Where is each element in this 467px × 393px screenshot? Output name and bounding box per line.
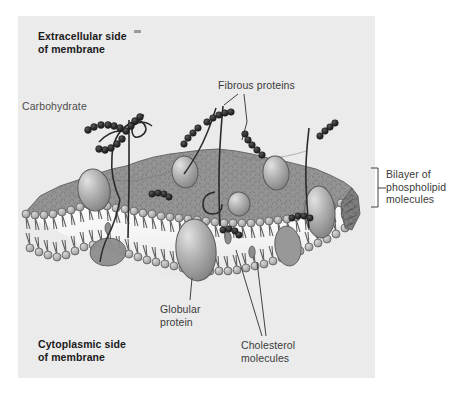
cell-membrane-figure: Extracellular side of membrane Carbohydr… — [0, 0, 467, 393]
superscript-mark — [134, 30, 141, 33]
carbohydrate-chain-far-right — [317, 120, 339, 140]
bracket-bilayer — [371, 168, 378, 207]
label-cytoplasmic-side: Cytoplasmic side of membrane — [38, 338, 126, 363]
label-globular-protein: Globular protein — [160, 303, 201, 328]
carbohydrate-chain-diagonal-left — [181, 125, 202, 148]
label-fibrous-proteins: Fibrous proteins — [218, 79, 295, 92]
label-bilayer-phospholipid: Bilayer of phospholipid molecules — [386, 168, 446, 206]
label-cholesterol-molecules: Cholesterol molecules — [241, 339, 295, 364]
leader-fibrous-1 — [224, 94, 238, 105]
leader-globular-protein — [190, 278, 192, 300]
label-extracellular-side: Extracellular side of membrane — [38, 30, 127, 55]
carbohydrate-chain-center-left — [204, 109, 235, 126]
carbohydrate-chain-left — [85, 114, 144, 154]
label-carbohydrate: Carbohydrate — [22, 100, 87, 113]
